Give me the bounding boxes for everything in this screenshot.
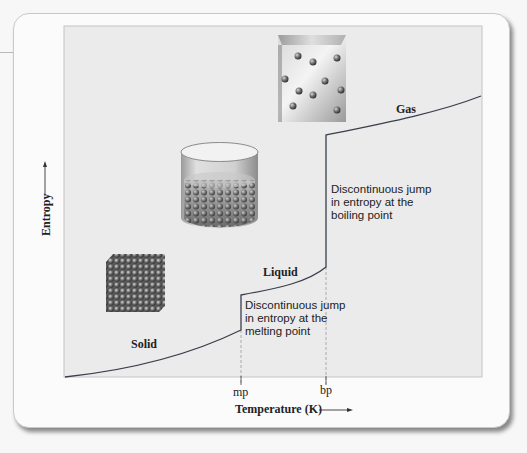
entropy-temperature-chart: Solid Liquid Gas Discontinuous jump in e…: [0, 0, 527, 453]
x-axis-title: Temperature (K): [235, 402, 322, 416]
solid-lattice-illustration: [106, 254, 165, 312]
melting-annotation-line-2: in entropy at the: [245, 312, 327, 324]
boiling-annotation-line-1: Discontinuous jump: [331, 183, 431, 195]
liquid-beaker-illustration: [181, 143, 258, 229]
gas-label: Gas: [396, 102, 416, 116]
y-axis-title: Entropy: [39, 194, 53, 236]
y-axis-arrow-icon: [43, 161, 47, 196]
boiling-annotation-line-3: boiling point: [331, 209, 393, 221]
x-axis-arrow-icon: [319, 408, 353, 412]
gas-box-illustration: [278, 35, 346, 122]
solid-label: Solid: [131, 337, 157, 351]
bp-tick-label: bp: [320, 383, 332, 397]
mp-tick-label: mp: [233, 385, 248, 399]
melting-annotation-line-1: Discontinuous jump: [245, 299, 345, 311]
boiling-annotation-line-2: in entropy at the: [331, 196, 413, 208]
melting-annotation-line-3: melting point: [245, 325, 311, 337]
liquid-label: Liquid: [263, 265, 298, 279]
